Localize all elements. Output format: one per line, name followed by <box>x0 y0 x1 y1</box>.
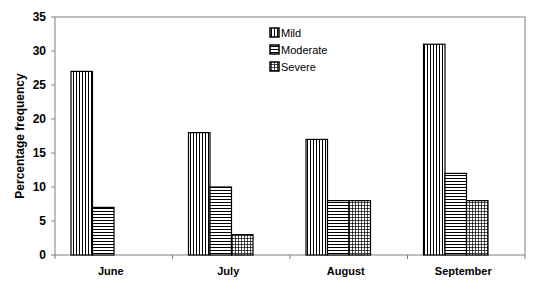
bar-mild-july <box>189 133 211 255</box>
bar-mild-september <box>424 44 446 255</box>
legend-swatch-mild <box>270 28 279 37</box>
legend-label: Mild <box>281 27 301 39</box>
bar-moderate-june <box>93 207 115 255</box>
legend-label: Moderate <box>281 44 327 56</box>
bar-severe-august <box>349 201 371 255</box>
bar-severe-september <box>467 201 489 255</box>
y-tick-label: 30 <box>33 44 47 58</box>
x-category-label: September <box>435 265 493 277</box>
bar-moderate-july <box>210 187 232 255</box>
y-tick-label: 20 <box>33 112 47 126</box>
bar-moderate-september <box>445 173 467 255</box>
legend-swatch-severe <box>270 62 279 71</box>
bar-moderate-august <box>328 201 350 255</box>
y-tick-label: 15 <box>33 146 47 160</box>
y-tick-label: 5 <box>39 214 46 228</box>
y-tick-label: 10 <box>33 180 47 194</box>
x-axis: JuneJulyAugustSeptember <box>55 255 525 277</box>
legend: MildModerateSevere <box>270 27 327 73</box>
y-tick-label: 25 <box>33 78 47 92</box>
y-axis-title: Percentage frequency <box>13 73 27 199</box>
legend-label: Severe <box>281 61 316 73</box>
x-category-label: July <box>217 265 240 277</box>
bars <box>71 44 488 255</box>
y-tick-label: 0 <box>39 248 46 262</box>
y-tick-label: 35 <box>33 10 47 24</box>
x-category-label: August <box>327 265 365 277</box>
x-category-label: June <box>98 265 124 277</box>
bar-mild-june <box>71 71 93 255</box>
y-axis: 05101520253035 <box>33 10 55 262</box>
bar-severe-july <box>232 235 254 255</box>
bar-mild-august <box>306 139 328 255</box>
legend-swatch-moderate <box>270 45 279 54</box>
bar-chart: 05101520253035 JuneJulyAugustSeptember M… <box>0 0 541 293</box>
